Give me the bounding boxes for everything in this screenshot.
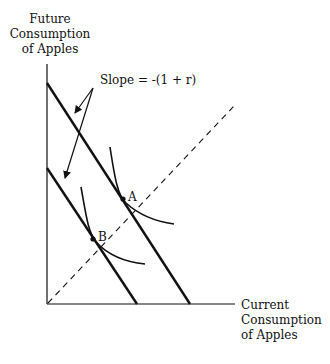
x-axis-label-line2: Consumption <box>241 313 322 328</box>
x-axis-label: Current Consumption of Apples <box>241 298 322 343</box>
y-axis-label: Future Consumption of Apples <box>0 12 100 57</box>
slope-arrow-lower <box>65 88 93 178</box>
point-b-label: B <box>98 230 107 245</box>
x-axis-label-line1: Current <box>241 298 322 313</box>
slope-annotation: Slope = -(1 + r) <box>100 73 196 88</box>
slope-arrow-upper <box>75 88 93 113</box>
y-axis-label-line1: Future <box>0 12 100 27</box>
point-a-label: A <box>128 190 137 205</box>
dashed-45-degree-line <box>48 106 234 303</box>
x-axis-label-line3: of Apples <box>241 328 322 343</box>
upper-budget-line <box>47 83 190 304</box>
y-axis-label-line3: of Apples <box>0 42 100 57</box>
y-axis-label-line2: Consumption <box>0 27 100 42</box>
point-a-marker <box>120 196 125 201</box>
point-b-marker <box>90 236 95 241</box>
indifference-curve-a <box>110 147 174 224</box>
